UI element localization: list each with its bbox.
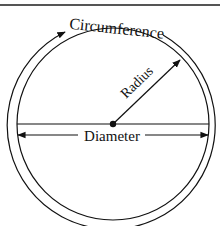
- circle-diagram: Circumference Radius Diameter: [0, 0, 220, 226]
- center-point: [110, 121, 116, 127]
- diameter-label: Diameter: [84, 128, 140, 144]
- radius-label: Radius: [118, 63, 156, 101]
- circumference-label: Circumference: [69, 15, 165, 42]
